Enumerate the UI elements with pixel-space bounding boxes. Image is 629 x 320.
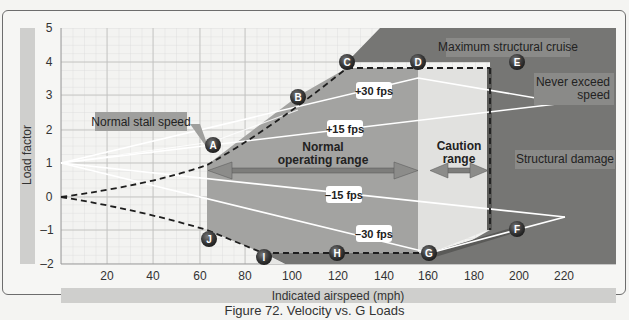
svg-text:F: F (514, 224, 520, 235)
y-axis-label: Load factor (20, 125, 34, 185)
gust-label-minus15: –15 fps (325, 186, 363, 203)
svg-text:140: 140 (374, 269, 394, 283)
gust-label-plus30: +30 fps (355, 82, 393, 99)
badge-a: A (205, 137, 221, 153)
svg-text:100: 100 (282, 269, 302, 283)
svg-text:0: 0 (46, 190, 53, 204)
svg-text:120: 120 (328, 269, 348, 283)
callout-structural-damage: Structural damage (515, 150, 615, 169)
svg-text:40: 40 (146, 269, 160, 283)
svg-text:G: G (425, 248, 433, 259)
svg-text:C: C (343, 57, 350, 68)
badge-e: E (509, 54, 525, 70)
svg-text:+15 fps: +15 fps (326, 123, 364, 135)
svg-text:–30 fps: –30 fps (355, 228, 393, 240)
svg-text:2: 2 (46, 123, 53, 137)
svg-text:Maximum structural cruise: Maximum structural cruise (438, 40, 578, 54)
svg-text:H: H (333, 248, 340, 259)
badge-h: H (329, 245, 345, 261)
y-ticks: 5 4 3 2 1 0 –1 –2 (40, 21, 54, 271)
svg-text:J: J (206, 234, 212, 245)
svg-text:3: 3 (46, 88, 53, 102)
svg-text:I: I (263, 252, 266, 263)
svg-text:–15 fps: –15 fps (325, 189, 363, 201)
badge-g: G (421, 245, 437, 261)
figure-caption: Figure 72. Velocity vs. G Loads (0, 303, 629, 318)
svg-text:A: A (209, 140, 216, 151)
svg-text:20: 20 (100, 269, 114, 283)
svg-text:–2: –2 (40, 257, 54, 271)
badge-f: F (509, 221, 525, 237)
svg-text:180: 180 (464, 269, 484, 283)
x-axis-label: Indicated airspeed (mph) (272, 289, 405, 303)
badge-b: B (290, 89, 306, 105)
svg-text:80: 80 (238, 269, 252, 283)
svg-text:E: E (514, 57, 521, 68)
svg-text:+30 fps: +30 fps (355, 85, 393, 97)
svg-text:5: 5 (46, 21, 53, 35)
svg-text:Never exceed: Never exceed (536, 75, 610, 89)
svg-text:D: D (414, 57, 421, 68)
svg-text:B: B (294, 92, 301, 103)
svg-text:Normal stall speed: Normal stall speed (91, 115, 190, 129)
svg-text:–1: –1 (40, 223, 54, 237)
svg-text:220: 220 (554, 269, 574, 283)
svg-text:Structural damage: Structural damage (516, 152, 614, 166)
badge-c: C (339, 54, 355, 70)
normal-range-label-2: operating range (278, 153, 369, 167)
caution-range-label-2: range (443, 152, 476, 166)
caution-range-label-1: Caution (437, 139, 482, 153)
vg-diagram: Load factor Indicated airspeed (mph) (0, 0, 629, 320)
badge-d: D (410, 54, 426, 70)
svg-text:60: 60 (193, 269, 207, 283)
svg-text:1: 1 (46, 156, 53, 170)
svg-text:200: 200 (509, 269, 529, 283)
svg-text:4: 4 (46, 55, 53, 69)
callout-never-exceed: Never exceed speed (534, 73, 614, 105)
svg-text:160: 160 (418, 269, 438, 283)
badge-j: J (201, 231, 217, 247)
normal-range-label-1: Normal (302, 140, 343, 154)
x-ticks: 20 40 60 80 100 120 140 160 180 200 220 (100, 269, 574, 283)
gust-label-plus15: +15 fps (326, 120, 364, 137)
badge-i: I (256, 249, 272, 265)
gust-label-minus30: –30 fps (355, 225, 393, 242)
svg-text:speed: speed (577, 88, 610, 102)
